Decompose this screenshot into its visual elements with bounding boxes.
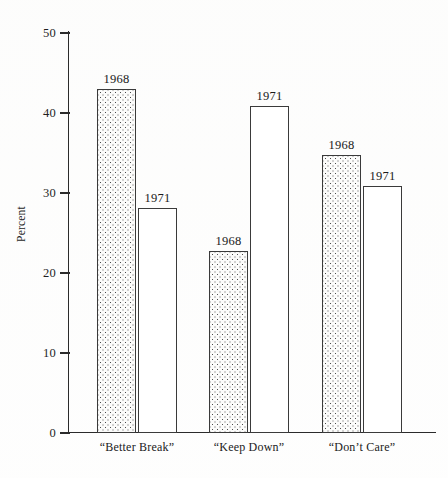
bar-label-1968-1: 1968 [91,73,142,86]
y-axis-tick-label: 0 [22,427,56,440]
y-axis-tick-label: 20 [22,267,56,280]
bar-label-1971-1: 1971 [132,192,183,205]
category-label-2: “Keep Down” [189,440,309,455]
y-axis-tick-label: 30 [22,187,56,200]
category-label-3: “Don’t Care” [302,440,422,455]
y-axis-tick-label: 10 [22,347,56,360]
bar-1968-1 [97,89,136,433]
bar-label-1968-3: 1968 [316,139,367,152]
bar-1968-3 [322,155,361,433]
y-axis-title: Percent [15,189,27,259]
bar-label-1971-2: 1971 [244,90,295,103]
y-axis-tick-label: 40 [22,107,56,120]
plot-area: 196819711968197119681971 [68,33,436,433]
bar-1971-1 [138,208,177,433]
category-label-1: “Better Break” [77,440,197,455]
y-axis-tick-label: 50 [22,27,56,40]
bar-chart: Percent 01020304050 19681971196819711968… [0,0,448,478]
bar-1971-2 [250,106,289,433]
bar-1968-2 [209,251,248,433]
bar-1971-3 [363,186,402,433]
bar-label-1968-2: 1968 [203,235,254,248]
bar-label-1971-3: 1971 [357,170,408,183]
